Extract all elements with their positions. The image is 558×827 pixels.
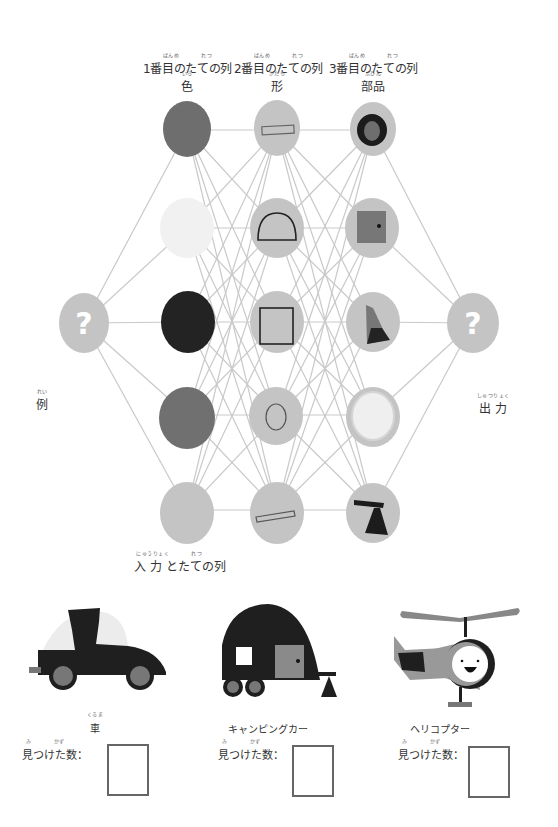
- camping-car-found-label: み かず 見つけた数：: [218, 738, 278, 763]
- input-question-mark-icon: ?: [75, 306, 92, 341]
- helicopter-count-box[interactable]: [468, 746, 510, 798]
- input-column-label: にゅうりょく れつ 入 力 とたての列: [130, 550, 230, 575]
- car-illustration: [29, 608, 166, 690]
- car-label: くるま 車: [80, 711, 110, 736]
- tire-wheel-part-icon: [357, 114, 387, 146]
- input-node: ?: [59, 293, 109, 353]
- input-column-label-furigana: にゅうりょく れつ: [130, 550, 230, 556]
- car-count-box[interactable]: [107, 744, 149, 796]
- neural-network-diagram: ? ?: [0, 0, 558, 600]
- kazu-furigana: かず: [250, 738, 261, 744]
- example-label-text: 例: [36, 398, 48, 412]
- camping-car-illustration: [222, 604, 337, 697]
- car-label-furigana: くるま: [80, 711, 110, 717]
- helicopter-illustration: [394, 608, 520, 707]
- output-label-furigana: しゅつりょく: [468, 392, 518, 398]
- car-found-label: み かず 見つけた数：: [22, 738, 82, 763]
- car-found-furigana: み かず: [22, 738, 82, 744]
- door-part-icon: [357, 211, 386, 243]
- example-label: れい 例: [32, 388, 52, 413]
- camping-car-label-text: キャンピングカー: [228, 724, 308, 735]
- camping-car-count-box[interactable]: [292, 745, 334, 797]
- helicopter-label: ヘリコプター: [405, 718, 475, 737]
- output-question-mark-icon: ?: [464, 306, 481, 341]
- output-label-text: 出 力: [479, 402, 507, 416]
- kazu-furigana: かず: [430, 738, 441, 744]
- camping-car-label: キャンピングカー: [228, 718, 308, 737]
- helicopter-found-text: 見つけた数：: [398, 749, 464, 762]
- white-color-node: [160, 198, 214, 258]
- car-label-text: 車: [90, 723, 100, 734]
- column-3-part-nodes: [345, 102, 400, 543]
- black-color-node: [161, 291, 215, 353]
- light-gray-color-node: [160, 482, 214, 544]
- output-node: ?: [447, 293, 499, 353]
- car-found-text: 見つけた数：: [22, 749, 88, 762]
- mi-furigana: み: [222, 738, 228, 744]
- camping-car-found-furigana: み かず: [218, 738, 278, 744]
- camping-car-found-text: 見つけた数：: [218, 749, 284, 762]
- helicopter-found-furigana: み かず: [398, 738, 458, 744]
- example-label-furigana: れい: [32, 388, 52, 394]
- kazu-furigana: かず: [54, 738, 65, 744]
- mi-furigana: み: [26, 738, 32, 744]
- helicopter-label-text: ヘリコプター: [410, 724, 470, 735]
- helicopter-found-label: み かず 見つけた数：: [398, 738, 458, 763]
- mi-furigana: み: [402, 738, 408, 744]
- medium-gray-color-node: [159, 387, 215, 449]
- output-label: しゅつりょく 出 力: [468, 392, 518, 417]
- input-column-label-text: 入 力 とたての列: [134, 560, 226, 574]
- window-part-icon: [352, 392, 394, 440]
- dark-gray-color-node: [163, 101, 211, 157]
